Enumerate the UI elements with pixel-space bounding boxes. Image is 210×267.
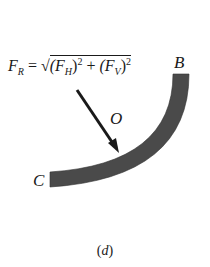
resultant-force-arrow-shaft <box>77 90 114 145</box>
term-horizontal: (F <box>50 57 65 74</box>
point-label-O: O <box>110 110 122 127</box>
curved-surface-diagram <box>0 0 210 267</box>
caption-letter: d <box>102 243 109 258</box>
sqrt-symbol: √ <box>41 57 50 74</box>
resultant-force-formula: FR = √(FH)2 + (FV)2 <box>8 57 131 77</box>
figure-caption: (d) <box>97 243 113 259</box>
point-label-B: B <box>174 54 184 71</box>
caption-close-paren: ) <box>109 243 114 258</box>
term-horizontal-subscript: H <box>65 66 72 77</box>
curved-surface-BC <box>50 74 189 187</box>
formula-equals: = <box>24 57 41 74</box>
formula-lhs: F <box>8 57 18 74</box>
exponent-2: 2 <box>126 56 131 67</box>
point-label-C: C <box>33 172 44 189</box>
term-vertical: (F <box>99 57 114 74</box>
formula-plus: + <box>82 57 99 74</box>
sqrt-radicand: (FH)2 + (FV)2 <box>50 55 131 74</box>
